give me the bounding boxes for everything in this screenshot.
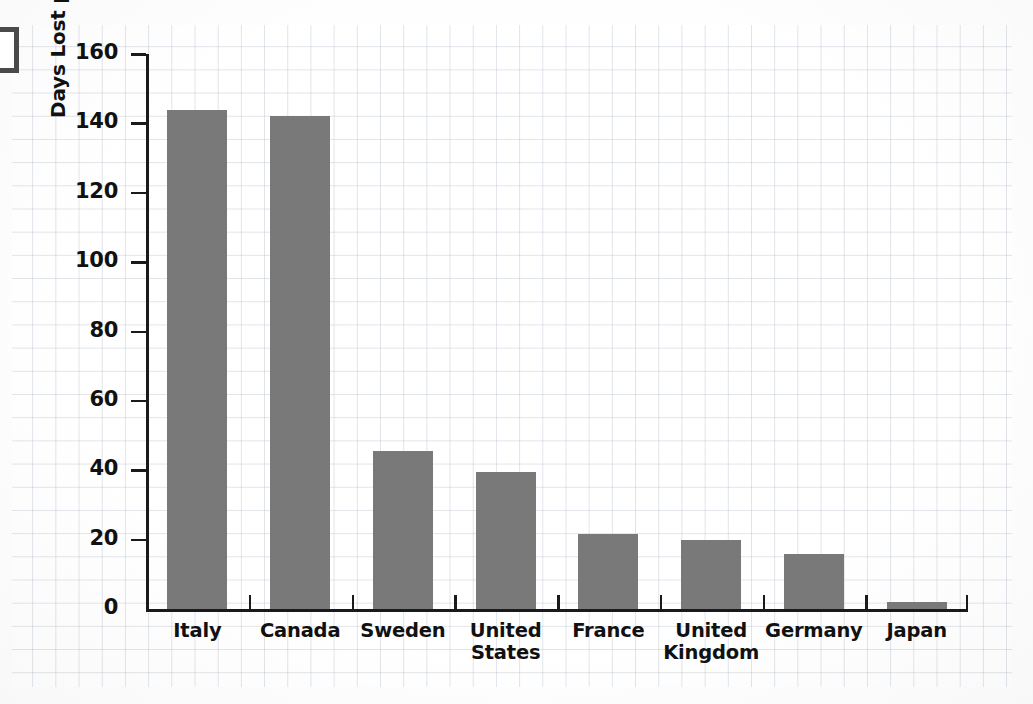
x-tick-1 — [249, 595, 252, 609]
x-label-line: Kingdom — [660, 642, 763, 664]
y-tick-20 — [131, 539, 146, 542]
y-tick-120 — [131, 192, 146, 195]
x-label-line: Italy — [146, 620, 249, 642]
y-tick-label-40: 40 — [46, 456, 118, 480]
bar-united-kingdom — [681, 540, 741, 609]
bar-chart: Days Lost per Thousand Workers per Year … — [0, 0, 1033, 704]
plot-area: 160140120100806040200 ItalyCanadaSwedenU… — [146, 54, 968, 610]
y-tick-label-0: 0 — [46, 595, 118, 619]
y-tick-label-80: 80 — [46, 318, 118, 342]
x-category-label-sweden: Sweden — [352, 620, 455, 642]
x-tick-3 — [454, 595, 457, 609]
x-category-label-united-kingdom: UnitedKingdom — [660, 620, 763, 664]
y-tick-label-100: 100 — [46, 248, 118, 272]
y-tick-140 — [131, 122, 146, 125]
x-label-line: Germany — [763, 620, 866, 642]
y-tick-100 — [131, 261, 146, 264]
bar-japan — [887, 602, 947, 609]
y-tick-label-20: 20 — [46, 526, 118, 550]
x-label-line: Canada — [249, 620, 352, 642]
y-tick-label-120: 120 — [46, 179, 118, 203]
x-category-label-france: France — [557, 620, 660, 642]
bar-canada — [270, 116, 330, 609]
y-tick-160 — [131, 53, 146, 56]
x-label-line: United — [454, 620, 557, 642]
x-category-label-united-states: UnitedStates — [454, 620, 557, 664]
bar-sweden — [373, 451, 433, 609]
x-tick-5 — [660, 595, 663, 609]
x-axis-line — [146, 609, 968, 612]
x-tick-end — [966, 595, 969, 609]
x-tick-7 — [865, 595, 868, 609]
x-label-line: Japan — [865, 620, 968, 642]
x-category-label-canada: Canada — [249, 620, 352, 642]
y-tick-60 — [131, 400, 146, 403]
y-tick-label-60: 60 — [46, 387, 118, 411]
x-category-label-germany: Germany — [763, 620, 866, 642]
x-tick-4 — [557, 595, 560, 609]
x-category-label-italy: Italy — [146, 620, 249, 642]
x-label-line: States — [454, 642, 557, 664]
y-tick-80 — [131, 331, 146, 334]
x-category-label-japan: Japan — [865, 620, 968, 642]
y-tick-40 — [131, 469, 146, 472]
x-label-line: United — [660, 620, 763, 642]
bar-germany — [784, 554, 844, 610]
x-label-line: Sweden — [352, 620, 455, 642]
y-tick-label-140: 140 — [46, 109, 118, 133]
scanned-page: Days Lost per Thousand Workers per Year … — [0, 0, 1033, 704]
y-tick-label-160: 160 — [46, 40, 118, 64]
bar-italy — [167, 110, 227, 610]
bar-france — [578, 534, 638, 609]
x-label-line: France — [557, 620, 660, 642]
x-tick-2 — [352, 595, 355, 609]
x-tick-6 — [763, 595, 766, 609]
y-axis-line — [146, 54, 149, 611]
bar-united-states — [476, 472, 536, 609]
